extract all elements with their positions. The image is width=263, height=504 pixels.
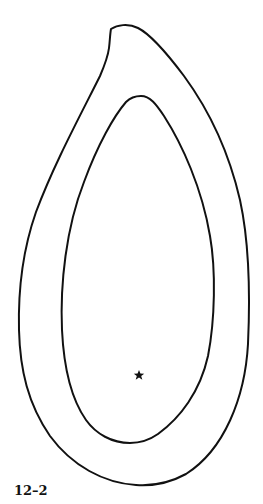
figure-label: 12–2	[14, 484, 48, 497]
star-icon	[134, 370, 144, 380]
contour-diagram	[0, 0, 263, 504]
outer-contour	[19, 25, 249, 485]
inner-contour	[62, 96, 214, 443]
